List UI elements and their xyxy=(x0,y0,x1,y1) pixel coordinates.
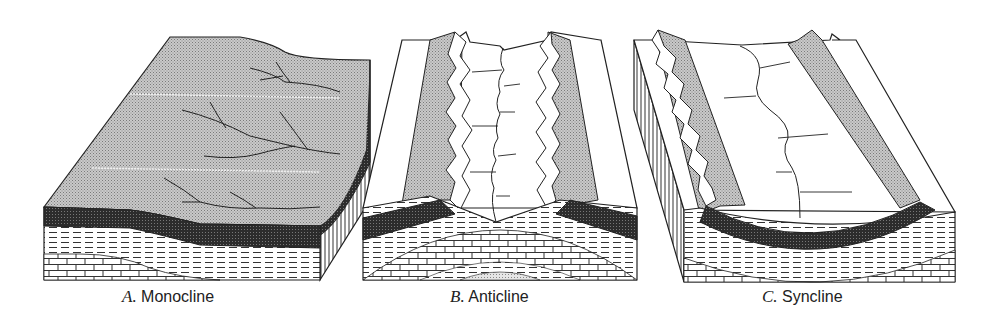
caption-monocline: A. Monocline xyxy=(122,287,214,307)
fold-diagram xyxy=(0,0,994,325)
monocline-block xyxy=(44,37,370,280)
caption-syncline: C. Syncline xyxy=(762,287,843,307)
caption-letter: C. xyxy=(762,287,778,306)
caption-title: Syncline xyxy=(782,288,842,305)
syncline-block xyxy=(634,30,955,282)
caption-title: Monocline xyxy=(141,288,214,305)
caption-letter: A. xyxy=(122,287,137,306)
anticline-block xyxy=(363,32,637,280)
caption-anticline: B. Anticline xyxy=(450,287,529,307)
caption-letter: B. xyxy=(450,287,465,306)
caption-title: Anticline xyxy=(468,288,528,305)
